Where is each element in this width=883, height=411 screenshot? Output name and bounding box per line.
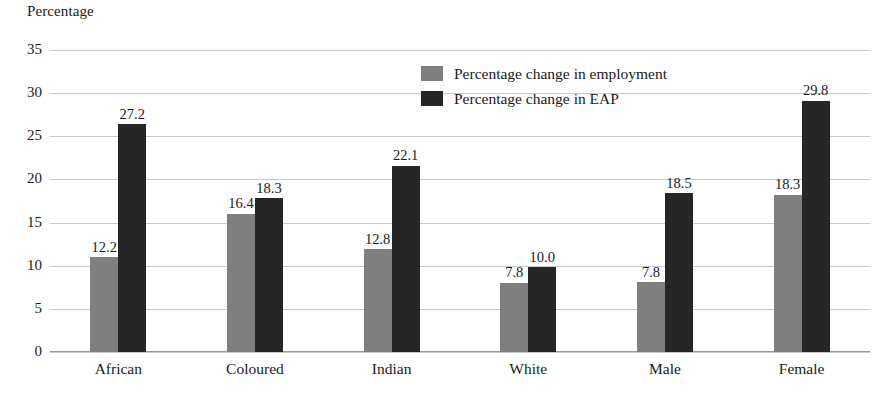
legend-swatch bbox=[421, 91, 443, 106]
bar[interactable]: 27.2 bbox=[118, 124, 146, 352]
bar-group: 12.227.2 bbox=[50, 50, 187, 352]
y-tick-label: 30 bbox=[8, 85, 42, 100]
bar-value-label: 16.4 bbox=[228, 196, 253, 211]
bar[interactable]: 12.8 bbox=[364, 249, 392, 352]
x-category-label: Indian bbox=[323, 360, 460, 379]
x-category-label: Coloured bbox=[187, 360, 324, 379]
y-tick-label: 0 bbox=[8, 344, 42, 359]
bar-value-label: 27.2 bbox=[120, 107, 145, 122]
bar-value-label: 12.2 bbox=[92, 240, 117, 255]
bar-value-label: 18.3 bbox=[256, 181, 281, 196]
y-axis-tick-labels: 35302520151050 bbox=[6, 50, 42, 352]
legend-item[interactable]: Percentage change in employment bbox=[421, 62, 667, 85]
x-axis-category-labels: AfricanColouredIndianWhiteMaleFemale bbox=[50, 360, 870, 386]
y-axis-title: Percentage bbox=[27, 3, 94, 20]
bar-value-label: 18.5 bbox=[666, 176, 691, 191]
legend-label: Percentage change in employment bbox=[454, 66, 667, 82]
bar[interactable]: 16.4 bbox=[227, 214, 255, 352]
bar-chart: Percentage 35302520151050 12.227.216.418… bbox=[0, 0, 883, 411]
bar-group: 18.329.8 bbox=[733, 50, 870, 352]
y-tick-label: 35 bbox=[8, 42, 42, 57]
bar[interactable]: 22.1 bbox=[392, 166, 420, 352]
bar-value-label: 10.0 bbox=[530, 250, 555, 265]
bar[interactable]: 10.0 bbox=[528, 267, 556, 352]
bar[interactable]: 7.8 bbox=[637, 282, 665, 352]
bar[interactable]: 18.5 bbox=[665, 193, 693, 352]
gridline-0 bbox=[50, 352, 870, 353]
x-category-label: Female bbox=[733, 360, 870, 379]
y-tick-label: 10 bbox=[8, 258, 42, 273]
bar-group: 16.418.3 bbox=[187, 50, 324, 352]
chart-legend: Percentage change in employmentPercentag… bbox=[421, 62, 667, 112]
bar[interactable]: 12.2 bbox=[90, 257, 118, 352]
bar[interactable]: 29.8 bbox=[802, 101, 830, 352]
bar-value-label: 29.8 bbox=[803, 83, 828, 98]
bar[interactable]: 18.3 bbox=[774, 195, 802, 352]
bar[interactable]: 7.8 bbox=[500, 283, 528, 352]
x-category-label: African bbox=[50, 360, 187, 379]
bar-value-label: 7.8 bbox=[642, 265, 660, 280]
legend-label: Percentage change in EAP bbox=[454, 91, 619, 107]
bar-value-label: 22.1 bbox=[393, 148, 418, 163]
y-tick-label: 20 bbox=[8, 171, 42, 186]
bar[interactable]: 18.3 bbox=[255, 198, 283, 352]
bar-value-label: 12.8 bbox=[365, 232, 390, 247]
y-tick-label: 15 bbox=[8, 215, 42, 230]
x-category-label: White bbox=[460, 360, 597, 379]
y-tick-label: 5 bbox=[8, 301, 42, 316]
legend-item[interactable]: Percentage change in EAP bbox=[421, 87, 667, 110]
legend-swatch bbox=[421, 66, 443, 81]
bar-value-label: 18.3 bbox=[775, 177, 800, 192]
y-tick-label: 25 bbox=[8, 128, 42, 143]
bar-value-label: 7.8 bbox=[505, 265, 523, 280]
x-category-label: Male bbox=[597, 360, 734, 379]
